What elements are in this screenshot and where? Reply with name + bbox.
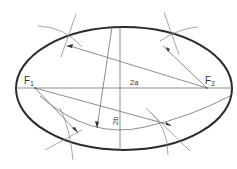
- ellipse-diagram: F1 F2 2a 2b: [0, 0, 237, 169]
- arc-mark-topleft-b: [61, 14, 76, 57]
- focus2-label: F2: [205, 75, 215, 87]
- focus-point-f2: [206, 87, 208, 89]
- minor-axis-label: 2b: [111, 117, 120, 125]
- arrowhead-topleft-icon: [66, 44, 73, 48]
- radius-line-top: [97, 27, 112, 128]
- focus1-label: F1: [24, 75, 34, 87]
- focal-line-f2-upper: [70, 46, 207, 88]
- focal-line-f1-bottomleft: [35, 88, 78, 133]
- arrowhead-bottomright-icon: [166, 122, 172, 126]
- arrowhead-bottomleft-icon: [72, 127, 78, 133]
- arc-lower: [40, 96, 230, 130]
- arc-mark-topleft-a: [38, 26, 82, 47]
- major-axis-label: 2a: [130, 78, 139, 87]
- ellipse-outline: [16, 27, 232, 150]
- focus-point-f1: [34, 87, 36, 89]
- arc-mark-topright-b: [160, 27, 198, 41]
- focal-line-f2-topright: [163, 46, 207, 88]
